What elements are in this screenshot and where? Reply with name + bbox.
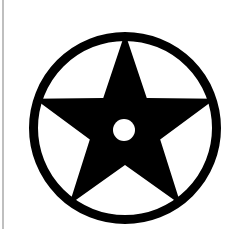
- image-canvas: Black five-pointed star enclosed in a bl…: [0, 0, 232, 238]
- star-in-circle-emblem: [0, 0, 232, 238]
- center-hole-icon: [113, 119, 135, 141]
